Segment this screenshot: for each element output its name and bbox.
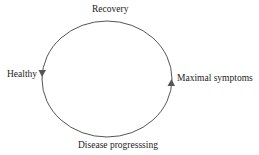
cycle-diagram: Recovery Healthy Maximal symptoms Diseas… — [0, 0, 259, 155]
label-recovery: Recovery — [92, 5, 128, 15]
label-disease-progressing: Disease progresssing — [78, 141, 158, 151]
arrowhead-down-icon — [39, 70, 47, 77]
arrowhead-up-icon — [168, 79, 176, 86]
label-maximal-symptoms: Maximal symptoms — [177, 74, 253, 84]
cycle-ellipse — [42, 21, 172, 137]
label-healthy: Healthy — [7, 70, 37, 80]
